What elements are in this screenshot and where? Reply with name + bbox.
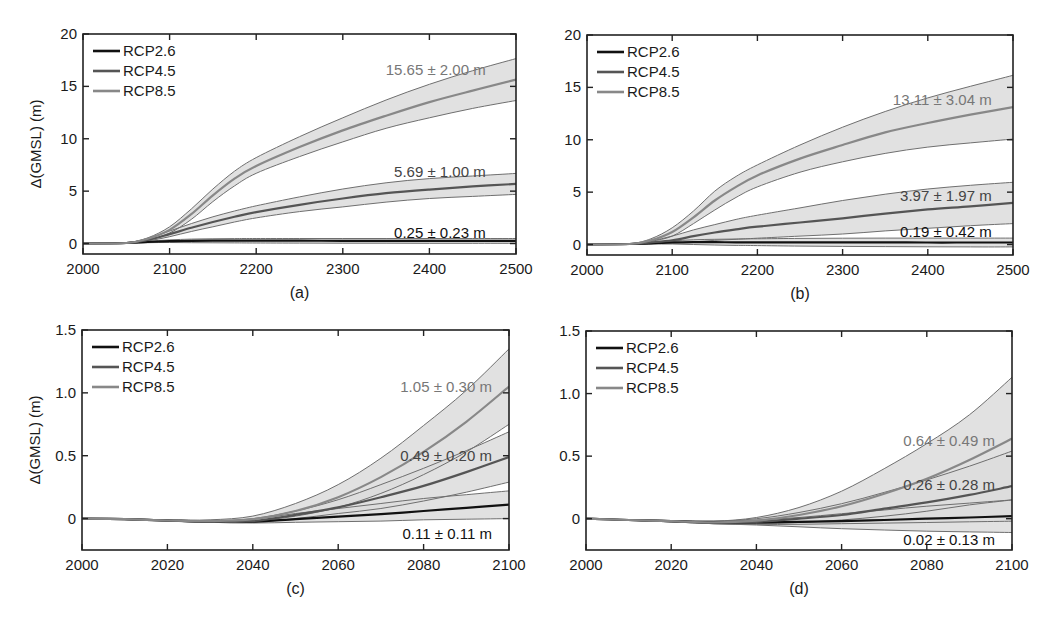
y-axis-title: Δ(GMSL) (m) xyxy=(27,99,44,188)
x-tick-label: 2000 xyxy=(65,556,98,573)
x-tick-label: 2200 xyxy=(240,260,273,277)
legend-label: RCP8.5 xyxy=(123,82,176,99)
x-tick-label: 2300 xyxy=(826,261,859,278)
legend-label: RCP2.6 xyxy=(627,43,680,60)
y-tick-label: 1.5 xyxy=(559,322,580,339)
x-tick-label: 2080 xyxy=(910,556,943,573)
panel-caption: (b) xyxy=(790,285,810,302)
x-tick-label: 2000 xyxy=(569,556,602,573)
legend: RCP2.6RCP4.5RCP8.5 xyxy=(596,339,679,396)
legend-label: RCP2.6 xyxy=(123,42,176,59)
value-annotation: 5.69 ± 1.00 m xyxy=(394,163,486,180)
legend-label: RCP4.5 xyxy=(627,63,680,80)
x-tick-label: 2020 xyxy=(655,556,688,573)
x-tick-label: 2400 xyxy=(413,260,446,277)
panel-caption: (c) xyxy=(286,580,305,597)
value-annotation: 0.19 ± 0.42 m xyxy=(900,223,992,240)
x-tick-label: 2500 xyxy=(996,261,1029,278)
y-tick-label: 0 xyxy=(573,236,581,253)
legend: RCP2.6RCP4.5RCP8.5 xyxy=(93,42,176,99)
legend-label: RCP2.6 xyxy=(626,339,679,356)
panel-caption: (a) xyxy=(290,284,310,301)
panel-b: 20002100220023002400250005101520(b)RCP2.… xyxy=(564,26,1029,302)
x-tick-label: 2400 xyxy=(911,261,944,278)
y-tick-label: 1.0 xyxy=(559,385,580,402)
x-tick-label: 2300 xyxy=(326,260,359,277)
y-tick-label: 5 xyxy=(573,183,581,200)
y-tick-label: 20 xyxy=(564,26,581,43)
y-tick-label: 0 xyxy=(69,235,77,252)
y-tick-label: 20 xyxy=(60,25,77,42)
legend-label: RCP4.5 xyxy=(122,358,175,375)
y-tick-label: 1.0 xyxy=(55,384,76,401)
x-tick-label: 2100 xyxy=(656,261,689,278)
legend: RCP2.6RCP4.5RCP8.5 xyxy=(92,338,175,395)
value-annotation: 13.11 ± 3.04 m xyxy=(893,91,992,108)
y-axis-title: Δ(GMSL) (m) xyxy=(26,395,43,484)
sea-level-figure: 20002100220023002400250005101520Δ(GMSL) … xyxy=(0,0,1056,627)
plot-area xyxy=(586,377,1012,532)
legend-label: RCP4.5 xyxy=(626,359,679,376)
value-annotation: 1.05 ± 0.30 m xyxy=(400,378,492,395)
value-annotation: 3.97 ± 1.97 m xyxy=(900,187,992,204)
x-tick-label: 2040 xyxy=(740,556,773,573)
y-tick-label: 15 xyxy=(564,78,581,95)
x-tick-label: 2080 xyxy=(407,556,440,573)
legend: RCP2.6RCP4.5RCP8.5 xyxy=(597,43,680,100)
value-annotation: 0.11 ± 0.11 m xyxy=(403,525,492,542)
legend-label: RCP4.5 xyxy=(123,62,176,79)
legend-label: RCP8.5 xyxy=(122,378,175,395)
x-tick-label: 2000 xyxy=(570,261,603,278)
x-tick-label: 2060 xyxy=(825,556,858,573)
value-annotation: 0.49 ± 0.20 m xyxy=(400,447,492,464)
y-tick-label: 10 xyxy=(60,130,77,147)
x-tick-label: 2500 xyxy=(499,260,532,277)
panel-d: 20002020204020602080210000.51.01.5(d)RCP… xyxy=(559,322,1029,597)
panel-caption: (d) xyxy=(789,580,809,597)
x-tick-label: 2100 xyxy=(153,260,186,277)
y-tick-label: 0.5 xyxy=(559,447,580,464)
value-annotation: 0.25 ± 0.23 m xyxy=(394,224,486,241)
x-tick-label: 2060 xyxy=(322,556,355,573)
y-tick-label: 5 xyxy=(69,182,77,199)
value-annotation: 0.02 ± 0.13 m xyxy=(903,531,995,548)
x-tick-label: 2000 xyxy=(66,260,99,277)
legend-label: RCP2.6 xyxy=(122,338,175,355)
y-tick-label: 0 xyxy=(572,510,580,527)
legend-label: RCP8.5 xyxy=(626,379,679,396)
x-tick-label: 2020 xyxy=(151,556,184,573)
y-tick-label: 0.5 xyxy=(55,447,76,464)
y-tick-label: 15 xyxy=(60,77,77,94)
value-annotation: 0.64 ± 0.49 m xyxy=(903,432,995,449)
legend-label: RCP8.5 xyxy=(627,83,680,100)
x-tick-label: 2100 xyxy=(995,556,1028,573)
x-tick-label: 2040 xyxy=(236,556,269,573)
value-annotation: 0.26 ± 0.28 m xyxy=(903,476,995,493)
x-tick-label: 2100 xyxy=(492,556,525,573)
y-tick-label: 1.5 xyxy=(55,321,76,338)
y-tick-label: 0 xyxy=(68,510,76,527)
value-annotation: 15.65 ± 2.00 m xyxy=(386,61,486,78)
plot-area xyxy=(82,349,509,523)
y-tick-label: 10 xyxy=(564,131,581,148)
panel-a: 20002100220023002400250005101520Δ(GMSL) … xyxy=(27,25,533,301)
x-tick-label: 2200 xyxy=(741,261,774,278)
panel-c: 20002020204020602080210000.51.01.5Δ(GMSL… xyxy=(26,321,526,597)
